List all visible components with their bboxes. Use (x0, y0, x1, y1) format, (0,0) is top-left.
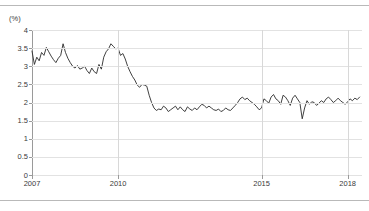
y-axis-tick-label: 0.5 (4, 152, 28, 161)
gridline-y-4 (32, 30, 362, 31)
gridline-y-3.5 (32, 48, 362, 49)
gridline-x-2010 (118, 30, 119, 175)
y-axis-tick-label: 2.5 (4, 80, 28, 89)
plot-area (32, 30, 362, 175)
figure-top-border (0, 5, 369, 6)
gridline-y-2.5 (32, 84, 362, 85)
x-axis-tick-label: 2010 (110, 179, 127, 188)
gridline-x-2015 (262, 30, 263, 175)
gridline-y-0.5 (32, 157, 362, 158)
figure-bottom-border (0, 200, 369, 201)
gridline-y-0 (32, 175, 362, 176)
y-axis-tick-label: 3.5 (4, 44, 28, 53)
y-axis-tick-label: 4 (4, 26, 28, 35)
x-axis-tick-label: 2007 (24, 179, 41, 188)
gridline-y-1 (32, 139, 362, 140)
y-axis-tick-label: 3 (4, 62, 28, 71)
gridline-y-2 (32, 103, 362, 104)
gridline-y-3 (32, 66, 362, 67)
gridline-x-2018 (348, 30, 349, 175)
chart-figure: (%) 00.511.522.533.542007201020152018 (0, 0, 369, 211)
x-axis-tick-label: 2018 (339, 179, 356, 188)
y-axis-tick-label: 1.5 (4, 116, 28, 125)
y-axis-unit-label: (%) (9, 14, 21, 23)
x-axis-tick-label: 2015 (253, 179, 270, 188)
y-axis-tick-label: 0 (4, 171, 28, 180)
y-axis-tick-label: 1 (4, 134, 28, 143)
gridline-y-1.5 (32, 121, 362, 122)
y-axis-tick-label: 2 (4, 98, 28, 107)
